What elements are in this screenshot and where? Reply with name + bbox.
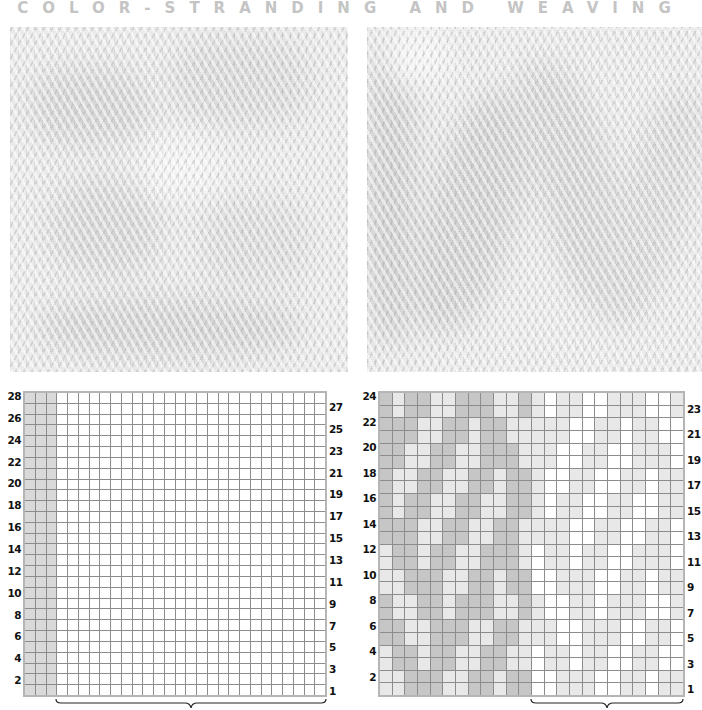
row-number-label: 9 xyxy=(687,581,694,593)
chart-cell xyxy=(68,512,78,522)
chart-cell xyxy=(583,557,595,569)
chart-cell xyxy=(79,436,89,446)
chart-cell xyxy=(79,555,89,565)
chart-cell xyxy=(621,418,633,430)
chart-cell xyxy=(229,458,239,468)
chart-cell xyxy=(305,534,315,544)
chart-cell xyxy=(557,431,569,443)
chart-cell xyxy=(122,599,132,609)
chart-cell xyxy=(305,512,315,522)
chart-cell xyxy=(240,404,250,414)
chart-cell xyxy=(315,534,325,544)
chart-cell xyxy=(532,671,544,683)
chart-cell xyxy=(133,425,143,435)
chart-cell xyxy=(272,685,282,695)
chart-cell xyxy=(57,653,67,663)
chart-cell xyxy=(165,393,175,403)
chart-cell xyxy=(25,512,35,522)
chart-cell xyxy=(633,469,645,481)
chart-cell xyxy=(507,418,519,430)
chart-cell xyxy=(283,599,293,609)
chart-cell xyxy=(229,664,239,674)
chart-cell xyxy=(111,555,121,565)
chart-cell xyxy=(111,674,121,684)
chart-cell xyxy=(621,469,633,481)
chart-cell xyxy=(197,512,207,522)
chart-cell xyxy=(570,620,582,632)
chart-cell xyxy=(315,664,325,674)
chart-cell xyxy=(519,608,531,620)
chart-cell xyxy=(431,494,443,506)
chart-cell xyxy=(595,658,607,670)
chart-cell xyxy=(219,566,229,576)
chart-cell xyxy=(208,642,218,652)
chart-cell xyxy=(251,544,261,554)
chart-cell xyxy=(283,436,293,446)
chart-cell xyxy=(219,577,229,587)
chart-cell xyxy=(283,425,293,435)
chart-cell xyxy=(143,501,153,511)
chart-cell xyxy=(671,658,683,670)
chart-cell xyxy=(57,490,67,500)
chart-cell xyxy=(315,436,325,446)
chart-cell xyxy=(557,658,569,670)
chart-cell xyxy=(659,582,671,594)
chart-cell xyxy=(90,512,100,522)
chart-cell xyxy=(154,501,164,511)
chart-cell xyxy=(25,523,35,533)
chart-cell xyxy=(380,519,392,531)
chart-cell xyxy=(418,671,430,683)
chart-cell xyxy=(557,582,569,594)
chart-cell xyxy=(111,609,121,619)
chart-cell xyxy=(608,444,620,456)
chart-cell xyxy=(197,534,207,544)
chart-cell xyxy=(507,620,519,632)
chart-cell xyxy=(633,570,645,582)
chart-cell xyxy=(251,642,261,652)
chart-cell xyxy=(557,532,569,544)
chart-cell xyxy=(405,646,417,658)
chart-cell xyxy=(143,642,153,652)
chart-cell xyxy=(456,406,468,418)
row-number-label: 20 xyxy=(7,477,21,489)
chart-cell xyxy=(519,595,531,607)
row-number-label: 28 xyxy=(7,390,21,402)
chart-cell xyxy=(57,425,67,435)
chart-cell xyxy=(305,490,315,500)
chart-cell xyxy=(557,570,569,582)
chart-cell xyxy=(570,456,582,468)
chart-cell xyxy=(294,653,304,663)
chart-cell xyxy=(633,633,645,645)
chart-cell xyxy=(111,566,121,576)
chart-cell xyxy=(570,608,582,620)
chart-cell xyxy=(570,595,582,607)
row-number-label: 19 xyxy=(687,454,701,466)
chart-cell xyxy=(154,425,164,435)
chart-cell xyxy=(176,544,186,554)
chart-cell xyxy=(405,620,417,632)
chart-cell xyxy=(229,609,239,619)
chart-cell xyxy=(646,671,658,683)
chart-cell xyxy=(507,646,519,658)
chart-cell xyxy=(380,646,392,658)
chart-cell xyxy=(251,566,261,576)
chart-cell xyxy=(443,431,455,443)
chart-cell xyxy=(165,425,175,435)
chart-cell xyxy=(36,447,46,457)
chart-cell xyxy=(431,633,443,645)
chart-cell xyxy=(240,620,250,630)
chart-cell xyxy=(469,595,481,607)
chart-cell xyxy=(557,683,569,695)
chart-cell xyxy=(507,545,519,557)
chart-cell xyxy=(545,406,557,418)
chart-cell xyxy=(393,620,405,632)
chart-cell xyxy=(646,418,658,430)
chart-cell xyxy=(659,646,671,658)
chart-cell xyxy=(111,436,121,446)
chart-cell xyxy=(251,458,261,468)
chart-cell xyxy=(443,608,455,620)
chart-cell xyxy=(219,653,229,663)
chart-cell xyxy=(570,633,582,645)
chart-cell xyxy=(532,431,544,443)
chart-cell xyxy=(305,501,315,511)
